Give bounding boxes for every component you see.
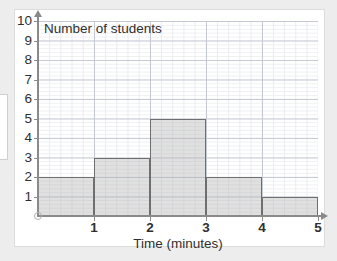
y-tick-label: 5: [0, 112, 32, 126]
histogram-bar: [150, 119, 206, 217]
y-axis-arrow-icon: [34, 10, 42, 17]
y-tick-mark: [34, 119, 38, 120]
y-axis-line: [37, 16, 39, 217]
y-tick-mark: [34, 197, 38, 198]
y-tick-label: 2: [0, 170, 32, 184]
y-tick-mark: [34, 41, 38, 42]
origin-marker-icon: [34, 212, 42, 220]
y-tick-mark: [34, 138, 38, 139]
x-tick-label: 3: [194, 221, 218, 235]
y-tick-mark: [34, 60, 38, 61]
y-tick-mark: [34, 21, 38, 22]
y-tick-mark: [34, 158, 38, 159]
y-tick-label: 3: [0, 151, 32, 165]
y-tick-mark: [34, 177, 38, 178]
x-tick-label: 5: [306, 221, 330, 235]
y-tick-label: 1: [0, 190, 32, 204]
histogram-bar: [38, 177, 94, 216]
y-tick-mark: [34, 80, 38, 81]
y-tick-label: 10: [0, 14, 32, 28]
x-tick-label: 1: [82, 221, 106, 235]
y-tick-label: 4: [0, 131, 32, 145]
y-axis-title: Number of students: [44, 21, 162, 37]
histogram-bar: [206, 177, 262, 216]
histogram-plot: 12345678910 12345 Number of students Tim…: [0, 0, 337, 261]
y-tick-label: 6: [0, 92, 32, 106]
x-tick-label: 2: [138, 221, 162, 235]
histogram-bar: [262, 197, 318, 217]
y-tick-mark: [34, 99, 38, 100]
x-tick-label: 4: [250, 221, 274, 235]
x-axis-arrow-icon: [321, 212, 328, 220]
y-tick-label: 9: [0, 34, 32, 48]
y-tick-label: 8: [0, 53, 32, 67]
x-axis-title: Time (minutes): [38, 236, 318, 251]
histogram-bar: [94, 158, 150, 217]
y-tick-label: 7: [0, 73, 32, 87]
x-axis-line: [37, 215, 323, 217]
